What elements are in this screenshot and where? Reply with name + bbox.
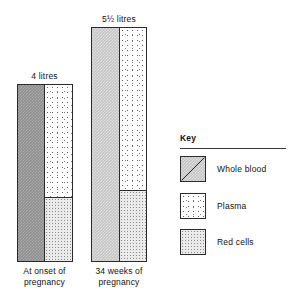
bar-onset-value-label: 4 litres <box>0 71 89 81</box>
blood-volume-diagram: 4 litres At onset of pregnancy 5½ litres… <box>0 0 291 302</box>
bar-onset-whole-blood-column <box>18 85 44 261</box>
legend-item-red-cells: Red cells <box>180 229 286 255</box>
bar-onset-components-column <box>45 85 72 261</box>
legend-item-whole-blood: Whole blood <box>180 156 286 182</box>
legend-label-plasma: Plasma <box>217 201 247 211</box>
legend-label-red-cells: Red cells <box>217 237 254 247</box>
bar-34-weeks-caption-line1: 34 weeks of <box>74 266 164 277</box>
bar-34-weeks <box>91 27 147 262</box>
bar-onset-red-cells-segment <box>45 198 72 261</box>
bar-34-weeks-value-label: 5½ litres <box>75 14 163 24</box>
bar-34-weeks-red-cells-segment <box>120 191 146 261</box>
bar-onset-plasma-segment <box>45 85 72 197</box>
bar-34-weeks-plasma-segment <box>120 28 146 190</box>
red-cells-swatch <box>180 229 206 255</box>
whole-blood-swatch <box>180 156 206 182</box>
bar-onset <box>17 84 73 262</box>
legend-item-plasma: Plasma <box>180 193 286 219</box>
legend-rule <box>180 148 286 149</box>
bar-34-weeks-caption: 34 weeks of pregnancy <box>74 266 164 287</box>
plasma-swatch <box>180 193 206 219</box>
bar-34-weeks-whole-blood-column <box>92 28 119 261</box>
legend-label-whole-blood: Whole blood <box>217 164 266 174</box>
bar-34-weeks-components-column <box>120 28 146 261</box>
legend-title: Key <box>180 133 196 143</box>
bar-34-weeks-caption-line2: pregnancy <box>74 277 164 288</box>
